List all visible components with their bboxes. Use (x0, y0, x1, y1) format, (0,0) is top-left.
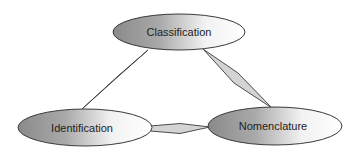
node-nomenclature: Nomenclature (208, 107, 342, 145)
label-nomenclature: Nomenclature (239, 120, 307, 132)
node-identification: Identification (18, 109, 152, 146)
label-classification: Classification (147, 26, 212, 38)
connector-identification-nomenclature (150, 124, 210, 134)
connector-classification-nomenclature (203, 49, 272, 108)
label-identification: Identification (51, 122, 113, 134)
edge-classification-identification (82, 50, 148, 109)
connector-classification-identification (82, 50, 148, 109)
edge-identification-nomenclature (150, 124, 210, 134)
node-classification: Classification (113, 14, 245, 50)
classification-identification-nomenclature-diagram: Classification Identification Nomenclatu… (0, 0, 359, 154)
edge-classification-nomenclature (203, 49, 272, 108)
